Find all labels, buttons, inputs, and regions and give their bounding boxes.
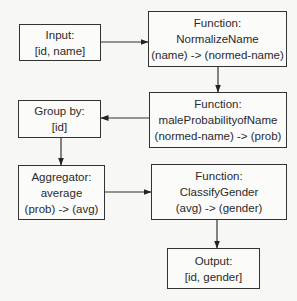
node-groupby-line-2: [id] xyxy=(52,119,67,135)
node-output: Output: [id, gender] xyxy=(167,248,260,289)
node-maleprob-line-2: maleProbabilityofName xyxy=(159,112,278,128)
node-maleprob-line-1: Function: xyxy=(194,96,241,112)
node-aggregator: Aggregator: average (prob) -> (avg) xyxy=(18,165,105,220)
node-classify-line-1: Function: xyxy=(195,168,242,184)
node-aggregator-line-1: Aggregator: xyxy=(31,169,91,185)
node-normalize-line-1: Function: xyxy=(194,15,241,31)
node-groupby-line-1: Group by: xyxy=(34,103,85,119)
node-maleprob-line-3: (normed-name) -> (prob) xyxy=(155,128,282,144)
node-normalize-line-3: (name) -> (normed-name) xyxy=(151,47,284,63)
node-group-by: Group by: [id] xyxy=(18,100,101,138)
node-input-line-1: Input: xyxy=(46,27,75,43)
node-classify-line-2: ClassifyGender xyxy=(180,184,259,200)
node-input-line-2: [id, name] xyxy=(35,43,86,59)
node-aggregator-line-3: (prob) -> (avg) xyxy=(25,201,99,217)
node-output-line-2: [id, gender] xyxy=(185,269,243,285)
node-aggregator-line-2: average xyxy=(41,185,83,201)
node-output-line-1: Output: xyxy=(195,253,233,269)
node-male-probability: Function: maleProbabilityofName (normed-… xyxy=(149,92,287,148)
node-normalize-line-2: NormalizeName xyxy=(176,31,258,47)
node-classify-line-3: (avg) -> (gender) xyxy=(176,200,263,216)
node-normalize-name: Function: NormalizeName (name) -> (norme… xyxy=(148,11,287,67)
node-input: Input: [id, name] xyxy=(19,24,101,61)
node-classify-gender: Function: ClassifyGender (avg) -> (gende… xyxy=(151,164,287,220)
